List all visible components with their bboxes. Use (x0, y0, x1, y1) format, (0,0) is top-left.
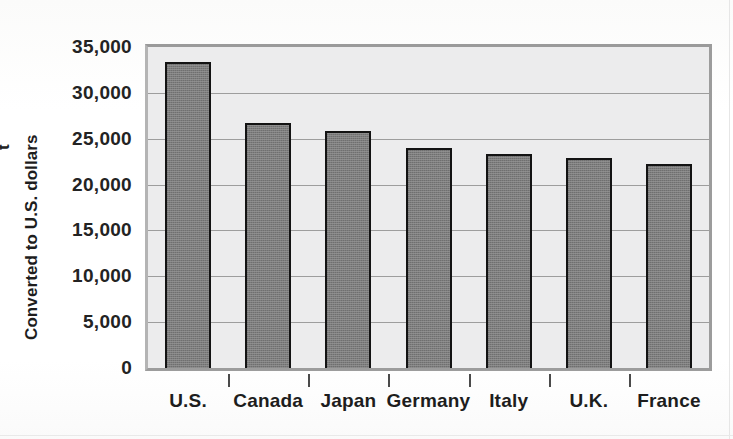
bar (646, 164, 692, 368)
bar-texture (568, 160, 610, 368)
bar (245, 123, 291, 368)
bar (165, 62, 211, 368)
bar (566, 158, 612, 368)
gridline (148, 93, 709, 94)
x-tick-mark (388, 374, 390, 387)
gridline (148, 139, 709, 140)
y-tick-label: 5,000 (40, 311, 132, 333)
bar-texture (247, 125, 289, 368)
y-tick-label: 0 (40, 357, 132, 379)
y-axis-ticks: 05,00010,00015,00020,00025,00030,00035,0… (40, 0, 132, 439)
x-tick-mark (469, 374, 471, 387)
x-tick-mark (629, 374, 631, 387)
plot-inner (148, 47, 709, 368)
x-tick-mark (549, 374, 551, 387)
x-tick-mark (228, 374, 230, 387)
x-tick-mark (308, 374, 310, 387)
y-axis-title: Converted to U.S. dollars (22, 134, 42, 340)
y-tick-label: 25,000 (40, 128, 132, 150)
x-tick-label: Japan (320, 390, 376, 412)
x-tick-label: U.S. (169, 390, 207, 412)
clipped-neighbour-text: t (0, 144, 14, 150)
y-tick-label: 20,000 (40, 174, 132, 196)
bar-texture (488, 156, 530, 368)
y-tick-label: 10,000 (40, 265, 132, 287)
y-tick-label: 30,000 (40, 82, 132, 104)
x-tick-label: France (637, 390, 701, 412)
bar-texture (167, 64, 209, 368)
plot-area (145, 44, 712, 371)
y-tick-label: 15,000 (40, 219, 132, 241)
bar (486, 154, 532, 368)
y-tick-label: 35,000 (40, 36, 132, 58)
x-tick-label: Canada (233, 390, 303, 412)
bar-texture (327, 133, 369, 368)
chart-page: t Converted to U.S. dollars 05,00010,000… (0, 0, 733, 439)
bar (406, 148, 452, 368)
x-tick-label: Germany (387, 390, 471, 412)
page-edge-right (729, 0, 730, 439)
bar-texture (408, 150, 450, 368)
x-tick-label: U.K. (569, 390, 608, 412)
bar (325, 131, 371, 368)
x-tick-label: Italy (489, 390, 528, 412)
bar-texture (648, 166, 690, 368)
